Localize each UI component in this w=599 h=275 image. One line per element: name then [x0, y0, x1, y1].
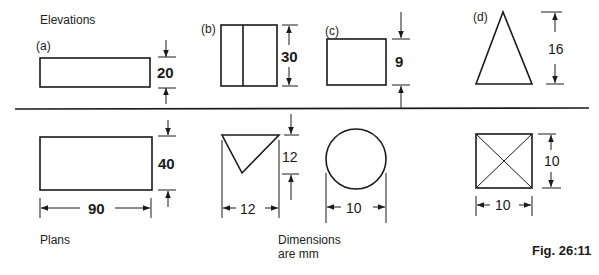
shape-a-plan: [40, 120, 176, 218]
ground-line: [15, 108, 589, 109]
figure-caption: Fig. 26:11: [532, 243, 591, 258]
shape-d-label: (d): [473, 10, 488, 24]
orthographic-diagram: Elevations Plans Dimensions are mm Fig. …: [0, 0, 599, 275]
shape-c-label: (c): [325, 24, 339, 38]
shape-b-elevation-dim: 30: [281, 48, 298, 65]
shape-a-label: (a): [36, 39, 51, 53]
elevations-heading: Elevations: [40, 13, 95, 27]
shape-d-elevation-dim: 16: [548, 41, 564, 57]
shape-a-elevation: [40, 40, 176, 104]
plans-heading: Plans: [40, 233, 70, 247]
shape-d-plan-width-dim: 10: [495, 197, 511, 213]
shape-d-plan: [476, 134, 561, 216]
shape-a-elevation-dim: 20: [157, 64, 174, 81]
dimensions-note-line2: are mm: [278, 247, 319, 261]
shape-a-plan-width-dim: 90: [88, 200, 105, 217]
shape-b-plan-width-dim: 12: [240, 201, 256, 217]
shape-c-elevation-dim: 9: [395, 53, 403, 70]
shape-b-plan-height-dim: 12: [282, 149, 298, 165]
shape-d-plan-height-dim: 10: [544, 153, 560, 169]
shape-b-label: (b): [201, 22, 216, 36]
shape-c-plan-width-dim: 10: [346, 200, 362, 216]
shape-b-plan: [222, 114, 299, 218]
shape-a-plan-height-dim: 40: [158, 155, 175, 172]
dimensions-note-line1: Dimensions: [278, 233, 341, 247]
